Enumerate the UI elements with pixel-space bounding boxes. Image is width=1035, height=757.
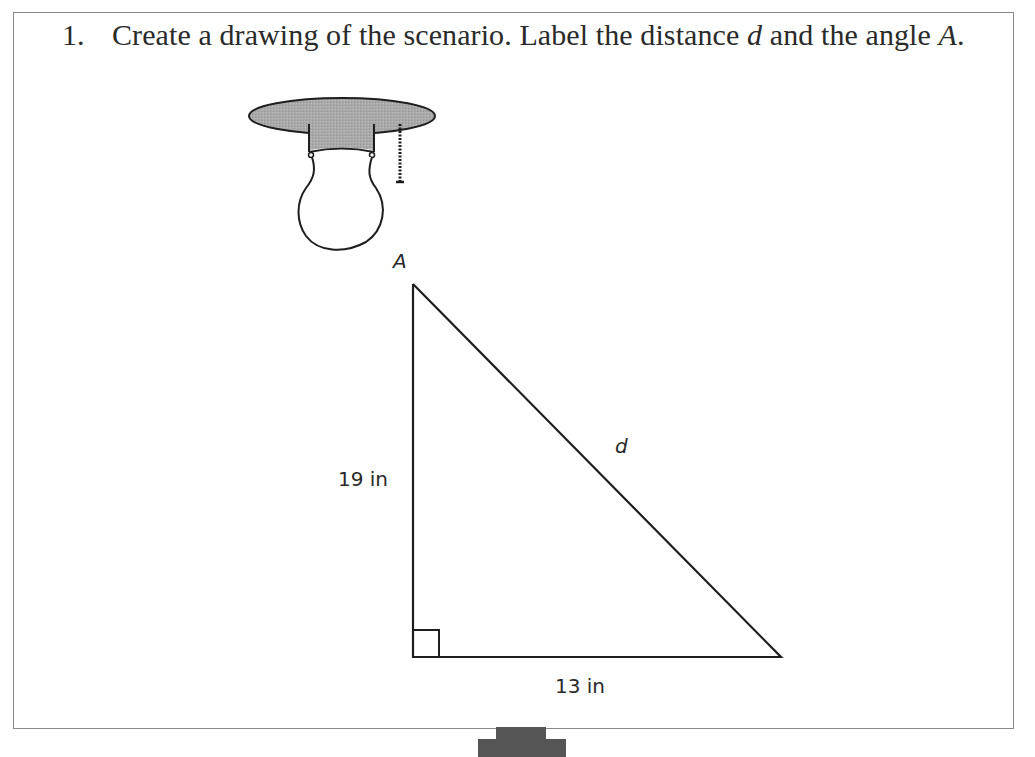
pull-chain-icon bbox=[396, 124, 404, 182]
vertical-leg-label: 19 in bbox=[338, 467, 388, 491]
hypotenuse-d-label: d bbox=[615, 434, 628, 458]
down-arrow-icon bbox=[478, 727, 570, 757]
diagram bbox=[0, 0, 1035, 757]
angle-a-label: A bbox=[393, 249, 407, 273]
horizontal-leg-label: 13 in bbox=[555, 674, 605, 698]
right-angle-marker bbox=[413, 630, 439, 657]
right-triangle bbox=[413, 284, 781, 657]
light-bulb-icon bbox=[249, 98, 435, 250]
